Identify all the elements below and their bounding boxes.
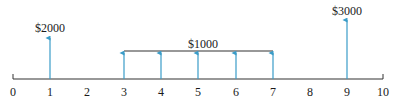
period-label-6: 6 [233,85,239,99]
cash-flow-label-2000: $2000 [35,21,65,35]
period-label-5: 5 [195,85,201,99]
period-label-2: 2 [84,85,90,99]
period-label-4: 4 [158,85,164,99]
annuity-label-1000: $1000 [188,37,218,51]
period-label-0: 0 [10,85,16,99]
period-label-9: 9 [344,85,350,99]
cash-flow-label-3000: $3000 [332,4,362,18]
cash-flow-period-9: $3000 [332,4,362,79]
period-label-7: 7 [270,85,276,99]
period-label-8: 8 [307,85,313,99]
period-label-3: 3 [121,85,127,99]
cash-flow-period-1: $2000 [35,21,65,79]
cash-flow-diagram: 0 1 2 3 4 5 6 7 8 9 10 $2000 $1000 $3000 [0,0,396,103]
period-label-10: 10 [377,85,389,99]
period-label-1: 1 [47,85,53,99]
period-labels: 0 1 2 3 4 5 6 7 8 9 10 [10,85,389,99]
annuity-group: $1000 [124,37,273,79]
